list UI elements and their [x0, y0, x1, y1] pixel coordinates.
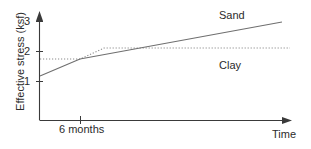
x-tick-label-6-months: 6 months — [59, 124, 104, 135]
chart-plot-area — [0, 0, 311, 149]
chart-figure: Effective stress (ksf) 3 2 1 6 months Ti… — [0, 0, 311, 149]
series-label-clay: Clay — [219, 60, 241, 71]
x-axis-title: Time — [272, 129, 296, 140]
y-tick-label-3: 3 — [24, 16, 30, 27]
series-line-clay — [40, 48, 290, 59]
x-axis-arrowhead — [282, 117, 292, 124]
y-tick-label-1: 1 — [24, 76, 30, 87]
series-label-sand: Sand — [219, 10, 245, 21]
series-line-sand — [40, 22, 282, 76]
y-axis-arrowhead — [36, 11, 43, 21]
y-tick-label-2: 2 — [24, 46, 30, 57]
